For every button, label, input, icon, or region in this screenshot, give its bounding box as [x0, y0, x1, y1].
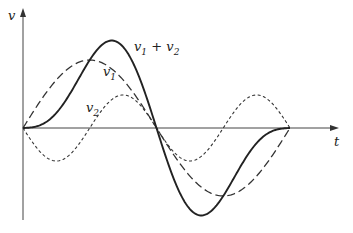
label-v1: v1	[103, 64, 116, 82]
v-axis-arrow-icon	[20, 8, 26, 17]
t-axis-arrow-icon	[330, 125, 339, 131]
v-axis-label: v	[8, 8, 16, 23]
waveform-diagram: v t v1 v2 v1 + v2	[0, 0, 353, 233]
t-axis-label: t	[334, 134, 340, 149]
label-sum: v1 + v2	[134, 39, 180, 57]
label-v2: v2	[86, 100, 99, 118]
